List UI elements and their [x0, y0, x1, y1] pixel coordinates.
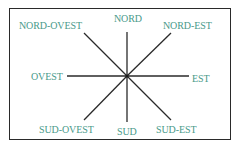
label-est: EST: [192, 74, 209, 84]
label-ovest: OVEST: [31, 72, 63, 82]
label-nord-est: NORD-EST: [163, 21, 212, 31]
label-nord-ovest: NORD-OVEST: [19, 21, 82, 31]
label-sud-ovest: SUD-OVEST: [39, 125, 94, 135]
center-point: [125, 74, 128, 77]
label-sud-est: SUD-EST: [156, 125, 196, 135]
line-southwest: [84, 76, 127, 120]
line-southeast: [127, 76, 171, 120]
label-nord: NORD: [114, 14, 142, 24]
label-sud: SUD: [117, 127, 137, 137]
line-northwest: [84, 33, 127, 76]
line-northeast: [127, 33, 171, 76]
